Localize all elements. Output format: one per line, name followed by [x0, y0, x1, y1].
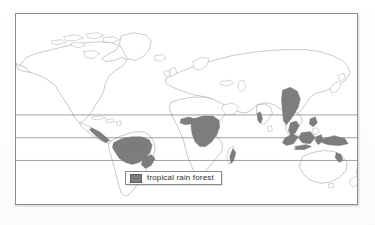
land-arctic-island-5: [103, 37, 119, 43]
land-arctic-island-2: [86, 33, 104, 39]
rainforest-sulawesi: [315, 135, 323, 145]
land-new-zealand-north: [356, 168, 357, 176]
rainforest-java: [295, 145, 311, 150]
land-philippines-2: [312, 128, 319, 135]
land-tasmania: [328, 183, 334, 188]
land-new-zealand-south: [349, 176, 357, 187]
land-arctic-island-1: [64, 35, 84, 41]
land-sri-lanka: [268, 126, 273, 132]
land-greenland: [119, 33, 151, 61]
rainforest-sumatra: [282, 134, 298, 146]
land-ireland: [164, 70, 170, 76]
figure-root: .land{fill:#ffffff;stroke:#9b9b9b;stroke…: [0, 0, 375, 225]
land-cuba: [92, 116, 106, 120]
land-hispaniola: [105, 119, 114, 123]
land-iceland: [154, 55, 166, 62]
land-lesser-antilles: [116, 121, 121, 126]
map-legend: tropical rain forest: [125, 171, 222, 185]
land-north-america: [20, 42, 127, 123]
rainforest-philippines: [309, 117, 317, 127]
land-arctic-island-3: [52, 40, 66, 45]
legend-label-rainforest: tropical rain forest: [147, 174, 214, 182]
legend-swatch-rainforest: [130, 174, 142, 183]
rainforest-new-guinea: [322, 136, 348, 146]
